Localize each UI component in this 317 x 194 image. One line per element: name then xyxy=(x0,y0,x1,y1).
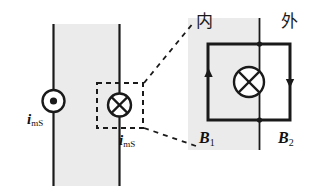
region-label-inside: 内 xyxy=(196,13,213,30)
field-label-B1-symbol: B xyxy=(199,129,210,146)
inset-current-into-page-symbol xyxy=(234,67,264,97)
field-arrow-down-B2 xyxy=(286,79,294,88)
field-label-B2-symbol: B xyxy=(278,129,289,146)
label-surface-current-right-subscript: mS xyxy=(123,139,135,149)
current-out-of-page-symbol xyxy=(43,90,65,112)
region-label-outside: 外 xyxy=(281,13,298,30)
loop-bottom-junction-dot xyxy=(257,117,262,122)
label-surface-current-right: imS xyxy=(119,133,136,149)
field-label-B1: B1 xyxy=(199,130,215,148)
field-label-B2-subscript: 2 xyxy=(289,137,294,148)
current-into-page-symbol xyxy=(108,94,131,117)
loop-top-junction-dot xyxy=(257,41,262,46)
leader-line-upper xyxy=(144,22,194,83)
field-label-B2: B2 xyxy=(278,130,294,148)
label-surface-current-left: imS xyxy=(27,112,44,128)
physics-figure: imS imS 内 外 B1 B2 xyxy=(0,0,317,194)
field-label-B1-subscript: 1 xyxy=(210,137,215,148)
label-surface-current-left-subscript: mS xyxy=(31,118,43,128)
figure-canvas xyxy=(0,0,317,194)
